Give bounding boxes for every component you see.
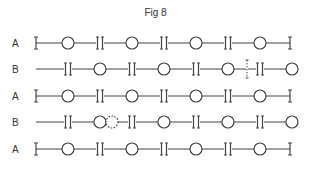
row-label: B — [12, 117, 19, 128]
circle-node-icon — [254, 37, 266, 49]
circle-node-icon — [190, 90, 202, 102]
circle-node-icon — [286, 116, 298, 128]
circle-node-icon — [254, 90, 266, 102]
double-bar-icon — [160, 37, 168, 49]
double-bar-icon — [64, 63, 72, 75]
double-bar-icon — [128, 116, 136, 128]
double-bar-icon — [224, 90, 232, 102]
circle-node-icon — [94, 116, 106, 128]
double-bar-icon — [256, 116, 264, 128]
double-bar-icon — [96, 143, 104, 155]
diagram-row-a: A — [12, 143, 292, 155]
circle-node-icon — [126, 90, 138, 102]
circle-node-icon — [62, 37, 74, 49]
circle-node-icon — [94, 63, 106, 75]
circle-node-icon — [190, 143, 202, 155]
row-label: A — [12, 144, 19, 155]
diagram-row-a: A — [12, 37, 292, 49]
chain-diagram: ABABA — [0, 0, 311, 175]
double-bar-icon — [96, 37, 104, 49]
double-bar-icon — [160, 90, 168, 102]
diagram-row-b: B — [12, 116, 298, 128]
double-bar-icon — [192, 116, 200, 128]
circle-node-icon — [222, 63, 234, 75]
circle-node-icon — [62, 143, 74, 155]
row-label: B — [12, 64, 19, 75]
double-bar-icon — [224, 143, 232, 155]
diagram-row-a: A — [12, 90, 292, 102]
double-bar-icon — [224, 37, 232, 49]
double-bar-icon — [128, 63, 136, 75]
row-label: A — [12, 91, 19, 102]
circle-node-icon — [158, 63, 170, 75]
circle-node-icon — [126, 143, 138, 155]
circle-node-icon — [254, 143, 266, 155]
dashed-circle-icon — [106, 116, 118, 128]
double-bar-icon — [96, 90, 104, 102]
circle-node-icon — [126, 37, 138, 49]
circle-node-icon — [190, 37, 202, 49]
row-label: A — [12, 38, 19, 49]
double-bar-icon — [160, 143, 168, 155]
double-bar-icon — [256, 63, 264, 75]
double-bar-icon — [64, 116, 72, 128]
circle-node-icon — [286, 63, 298, 75]
double-bar-icon — [192, 63, 200, 75]
circle-node-icon — [158, 116, 170, 128]
circle-node-icon — [62, 90, 74, 102]
circle-node-icon — [222, 116, 234, 128]
diagram-row-b: B — [12, 60, 298, 78]
